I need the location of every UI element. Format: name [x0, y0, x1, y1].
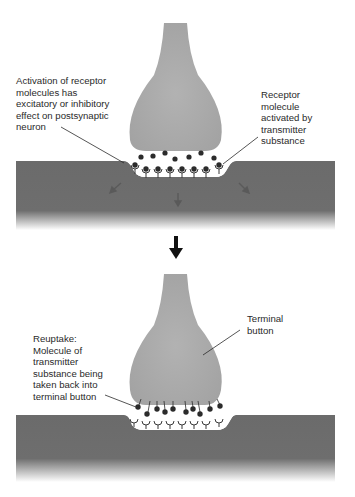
transmitter-molecules-top [138, 150, 216, 161]
label-terminal-button: Terminal button [247, 313, 283, 336]
label-receptor-molecule: Receptor molecule activated by transmitt… [261, 89, 312, 147]
label-activation: Activation of receptor molecules has exc… [16, 75, 109, 133]
terminal-button-top [130, 23, 222, 151]
down-arrow-icon [169, 236, 183, 259]
terminal-button-bottom [130, 274, 222, 405]
label-reuptake: Reuptake: Molecule of transmitter substa… [33, 333, 103, 402]
